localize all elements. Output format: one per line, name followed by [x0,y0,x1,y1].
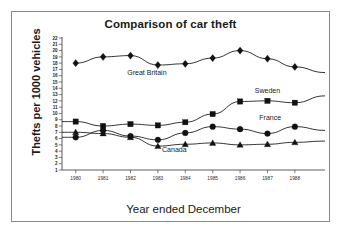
data-point-diamond [237,47,243,54]
data-point-diamond [73,60,79,67]
data-point-diamond [265,55,271,62]
y-tick-label: 15 [52,80,58,85]
series-line [62,96,325,126]
data-point-circle [73,134,79,140]
y-tick-label: 11 [53,105,58,110]
data-point-square [210,111,215,116]
data-point-square [292,100,297,105]
x-axis: 198019811982198319841985198619871988 [62,170,325,181]
series-line [76,51,325,73]
plot-area: 22212019181716151413121110987654321 1980… [44,34,327,194]
data-point-diamond [155,61,161,68]
x-tick-label: 1982 [125,176,136,181]
y-tick-label: 8 [55,124,58,129]
y-tick-label: 14 [52,86,58,91]
y-tick-label: 7 [55,130,58,135]
y-tick-label: 4 [55,149,58,154]
series-sweden [62,96,325,129]
y-tick-label: 9 [55,117,58,122]
series-label-canada: Canada [162,146,187,153]
y-axis-label: Thefts per 1000 vehicles [30,12,42,172]
data-point-square [155,123,160,128]
data-point-diamond [292,63,298,70]
data-point-square [73,119,78,124]
y-tick-label: 22 [52,36,58,41]
x-tick-label: 1984 [180,176,191,181]
data-point-circle [210,124,216,130]
series-group [62,47,325,149]
y-tick-label: 19 [52,55,58,60]
series-label-france: France [259,114,281,121]
data-point-circle [182,130,188,136]
data-point-square [183,120,188,125]
y-tick-label: 5 [55,143,58,148]
x-tick-label: 1981 [98,176,109,181]
data-point-square [237,99,242,104]
data-point-square [265,98,270,103]
x-tick-label: 1987 [262,176,273,181]
y-tick-label: 16 [52,73,58,78]
data-point-diamond [182,60,188,67]
series-great-britain [73,47,325,73]
y-tick-label: 1 [55,168,58,173]
data-point-circle [155,137,161,143]
x-tick-label: 1983 [153,176,164,181]
x-axis-label: Year ended December [42,203,325,215]
x-tick-label: 1988 [290,176,301,181]
x-tick-label: 1980 [70,176,81,181]
data-point-diamond [100,53,106,60]
y-axis: 22212019181716151413121110987654321 [52,36,62,173]
y-tick-label: 2 [55,161,58,166]
y-tick-label: 18 [52,61,58,66]
data-point-diamond [210,54,216,61]
data-point-square [128,121,133,126]
x-tick-label: 1985 [207,176,218,181]
x-tick-label: 1986 [235,176,246,181]
y-tick-label: 17 [52,67,58,72]
data-point-circle [292,124,298,130]
y-tick-label: 13 [52,92,58,97]
y-tick-label: 12 [52,99,58,104]
y-tick-label: 6 [55,136,58,141]
data-point-circle [237,126,243,132]
y-tick-label: 20 [52,48,58,53]
chart-figure: Comparison of car theft Thefts per 1000 … [11,11,330,222]
series-label-great-britain: Great Britain [127,69,166,76]
series-annotations: Great BritainSwedenFranceCanada [127,69,281,153]
data-point-circle [265,131,271,137]
y-tick-label: 21 [52,42,58,47]
series-label-sweden: Sweden [255,87,280,94]
data-point-diamond [128,52,134,59]
chart-title: Comparison of car theft [12,18,329,30]
line-chart-svg: 22212019181716151413121110987654321 1980… [44,34,327,194]
y-tick-label: 3 [55,155,58,160]
y-tick-label: 10 [52,111,58,116]
